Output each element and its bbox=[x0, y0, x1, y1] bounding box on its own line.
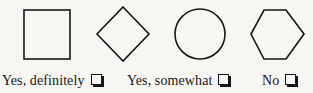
survey-shapes-response-panel: Yes, definitely Yes, somewhat No bbox=[0, 0, 313, 93]
checkbox-empty-icon bbox=[218, 74, 229, 85]
option-yes-somewhat[interactable]: Yes, somewhat bbox=[127, 68, 231, 93]
option-no[interactable]: No bbox=[262, 68, 298, 93]
circle-shape-icon bbox=[170, 0, 232, 68]
checkbox-yes-somewhat[interactable] bbox=[218, 74, 231, 87]
option-yes-definitely[interactable]: Yes, definitely bbox=[2, 68, 104, 93]
shapes-row bbox=[0, 0, 313, 68]
checkbox-empty-icon bbox=[91, 74, 102, 85]
option-label-no: No bbox=[262, 74, 279, 88]
option-label-yes-definitely: Yes, definitely bbox=[2, 74, 85, 88]
shape-circle bbox=[170, 0, 232, 68]
hexagon-shape-icon bbox=[246, 0, 308, 68]
option-label-yes-somewhat: Yes, somewhat bbox=[127, 74, 212, 88]
diamond-shape-icon bbox=[92, 0, 156, 68]
shape-square bbox=[18, 0, 78, 68]
checkbox-yes-definitely[interactable] bbox=[91, 74, 104, 87]
checkbox-no[interactable] bbox=[285, 74, 298, 87]
response-options-row: Yes, definitely Yes, somewhat No bbox=[0, 68, 313, 93]
shape-diamond bbox=[92, 0, 156, 68]
shape-hexagon bbox=[246, 0, 308, 68]
square-shape-icon bbox=[18, 0, 78, 68]
checkbox-empty-icon bbox=[285, 74, 296, 85]
